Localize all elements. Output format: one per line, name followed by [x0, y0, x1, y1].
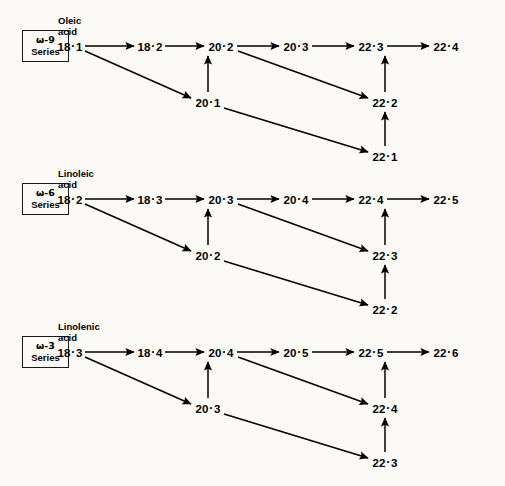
fatty-acid-desaturation-elongation-diagram: ω-9SeriesOleicacid18·118·220·220·322·322…: [0, 0, 505, 486]
node-middle-omega-9-1: 22·2: [372, 95, 397, 109]
precursor-acid-label-omega-3: Linolenicacid: [58, 321, 100, 343]
arrow-diagonal-omega-3-0: [85, 357, 191, 404]
arrow-diagonal-omega-6-2: [224, 261, 368, 305]
node-top-omega-9-1: 18·2: [137, 39, 162, 53]
node-top-omega-3-5: 22·6: [433, 345, 458, 359]
node-top-omega-6-4: 22·4: [358, 192, 383, 206]
node-middle-omega-9-0: 20·1: [195, 95, 220, 109]
node-top-omega-3-3: 20·5: [283, 345, 308, 359]
node-top-omega-9-3: 20·3: [283, 39, 308, 53]
arrow-diagonal-omega-6-1: [238, 204, 368, 251]
node-top-omega-6-1: 18·3: [137, 192, 162, 206]
arrow-diagonal-omega-3-2: [224, 414, 368, 458]
node-top-omega-3-1: 18·4: [137, 345, 162, 359]
node-top-omega-3-4: 22·5: [358, 345, 383, 359]
node-top-omega-6-5: 22·5: [433, 192, 458, 206]
arrow-diagonal-omega-9-0: [85, 51, 191, 98]
node-top-omega-9-5: 22·4: [433, 39, 458, 53]
precursor-acid-label-omega-9: Oleicacid: [58, 15, 81, 37]
precursor-acid-word: acid: [58, 26, 81, 37]
precursor-acid-label-omega-6: Linoleicacid: [58, 168, 94, 190]
node-top-omega-6-2: 20·3: [208, 192, 233, 206]
node-top-omega-3-0: 18·3: [57, 345, 82, 359]
node-top-omega-6-3: 20·4: [283, 192, 308, 206]
precursor-acid-name: Linoleic: [58, 168, 94, 179]
arrow-diagonal-omega-3-1: [238, 357, 368, 404]
node-bottom-omega-6-0: 22·2: [372, 302, 397, 316]
node-top-omega-9-4: 22·3: [358, 39, 383, 53]
precursor-acid-name: Linolenic: [58, 321, 100, 332]
node-middle-omega-6-1: 22·3: [372, 248, 397, 262]
node-top-omega-6-0: 18·2: [57, 192, 82, 206]
node-top-omega-3-2: 20·4: [208, 345, 233, 359]
node-middle-omega-6-0: 20·2: [195, 248, 220, 262]
arrow-diagonal-omega-9-1: [238, 51, 368, 98]
node-middle-omega-3-1: 22·4: [372, 401, 397, 415]
node-bottom-omega-3-0: 22·3: [372, 455, 397, 469]
node-top-omega-9-2: 20·2: [208, 39, 233, 53]
arrow-diagonal-omega-9-2: [224, 108, 368, 152]
node-top-omega-9-0: 18·1: [57, 39, 82, 53]
precursor-acid-word: acid: [58, 179, 94, 190]
node-middle-omega-3-0: 20·3: [195, 401, 220, 415]
arrow-layer: [0, 0, 505, 486]
precursor-acid-name: Oleic: [58, 15, 81, 26]
precursor-acid-word: acid: [58, 332, 100, 343]
node-bottom-omega-9-0: 22·1: [372, 149, 397, 163]
arrow-diagonal-omega-6-0: [85, 204, 191, 251]
